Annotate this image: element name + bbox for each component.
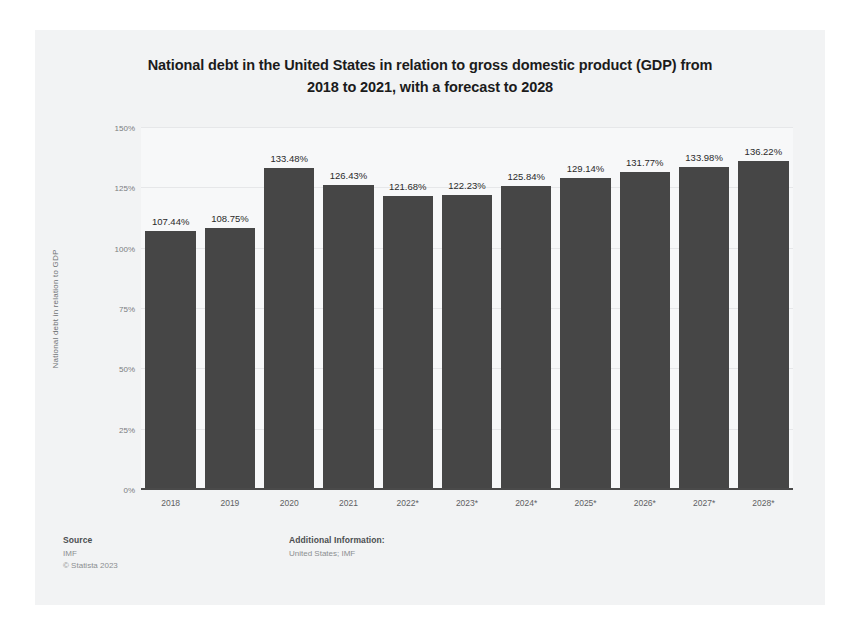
x-axis-tick-label: 2026* xyxy=(615,498,674,508)
x-axis-tick-label: 2024* xyxy=(497,498,556,508)
footer-source-heading: Source xyxy=(63,535,118,545)
bar-value-label: 126.43% xyxy=(319,170,378,181)
bar-value-label: 108.75% xyxy=(200,213,259,224)
x-axis-line xyxy=(141,488,793,490)
footer-additional-heading: Additional Information: xyxy=(289,535,385,545)
footer-source-line: IMF xyxy=(63,548,118,560)
bar-value-label: 121.68% xyxy=(378,181,437,192)
x-axis-tick-label: 2020 xyxy=(260,498,319,508)
bar-slot: 126.43% xyxy=(319,128,378,490)
bar-slot: 136.22% xyxy=(734,128,793,490)
bar-value-label: 131.77% xyxy=(615,157,674,168)
bar[interactable] xyxy=(620,172,670,490)
bar-value-label: 136.22% xyxy=(734,146,793,157)
bar[interactable] xyxy=(501,186,551,490)
bar-slot: 125.84% xyxy=(497,128,556,490)
plot-frame: National debt in relation to GDP 107.44%… xyxy=(101,128,793,490)
chart-card: National debt in the United States in re… xyxy=(35,30,825,605)
bar-slot: 129.14% xyxy=(556,128,615,490)
y-axis-title: National debt in relation to GDP xyxy=(51,194,60,424)
chart-footer: Source IMF © Statista 2023 Additional In… xyxy=(63,535,803,595)
y-axis-tick-label: 50% xyxy=(101,365,135,374)
bar[interactable] xyxy=(679,167,729,490)
x-axis-tick-label: 2019 xyxy=(200,498,259,508)
bars-layer: 107.44%108.75%133.48%126.43%121.68%122.2… xyxy=(141,128,793,490)
x-axis-tick-label: 2023* xyxy=(437,498,496,508)
bar[interactable] xyxy=(738,161,788,490)
bar[interactable] xyxy=(145,231,195,490)
x-axis-tick-label: 2027* xyxy=(674,498,733,508)
bar-value-label: 125.84% xyxy=(497,171,556,182)
y-axis-tick-label: 100% xyxy=(101,244,135,253)
y-axis-tick-label: 150% xyxy=(101,124,135,133)
bar[interactable] xyxy=(323,185,373,490)
x-axis-tick-label: 2018 xyxy=(141,498,200,508)
y-axis-tick-label: 125% xyxy=(101,184,135,193)
y-axis-tick-label: 75% xyxy=(101,305,135,314)
chart-title-line-1: National debt in the United States in re… xyxy=(75,54,785,76)
plot-area: 107.44%108.75%133.48%126.43%121.68%122.2… xyxy=(141,128,793,490)
x-axis-tick-label: 2028* xyxy=(734,498,793,508)
bar-value-label: 133.98% xyxy=(674,152,733,163)
bar-value-label: 129.14% xyxy=(556,163,615,174)
bar-slot: 121.68% xyxy=(378,128,437,490)
bar-slot: 107.44% xyxy=(141,128,200,490)
bar-slot: 133.48% xyxy=(260,128,319,490)
footer-additional-line: United States; IMF xyxy=(289,548,385,560)
bar-slot: 131.77% xyxy=(615,128,674,490)
footer-copyright-line: © Statista 2023 xyxy=(63,560,118,572)
x-axis-tick-label: 2025* xyxy=(556,498,615,508)
y-axis-tick-label: 25% xyxy=(101,425,135,434)
chart-title: National debt in the United States in re… xyxy=(75,54,785,99)
y-axis-tick-label: 0% xyxy=(101,486,135,495)
bar-value-label: 107.44% xyxy=(141,216,200,227)
chart-title-line-2: 2018 to 2021, with a forecast to 2028 xyxy=(75,76,785,98)
x-axis-tick-label: 2022* xyxy=(378,498,437,508)
bar[interactable] xyxy=(205,228,255,490)
bar-value-label: 133.48% xyxy=(260,153,319,164)
bar[interactable] xyxy=(264,168,314,490)
bar-slot: 122.23% xyxy=(437,128,496,490)
bar-slot: 108.75% xyxy=(200,128,259,490)
bar[interactable] xyxy=(383,196,433,490)
footer-source: Source IMF © Statista 2023 xyxy=(63,535,118,571)
bar-value-label: 122.23% xyxy=(437,180,496,191)
x-axis-tick-label: 2021 xyxy=(319,498,378,508)
footer-additional-information: Additional Information: United States; I… xyxy=(289,535,385,560)
bar-slot: 133.98% xyxy=(674,128,733,490)
bar[interactable] xyxy=(442,195,492,490)
bar[interactable] xyxy=(560,178,610,490)
